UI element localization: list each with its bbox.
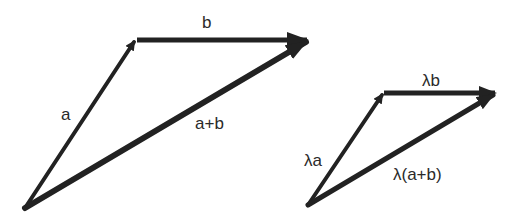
label-a-plus-b: a+b	[195, 115, 224, 132]
label-b: b	[202, 14, 211, 31]
vector-diagram-svg	[0, 0, 516, 222]
vector-lambda-a-arrow	[308, 95, 382, 205]
label-a: a	[61, 106, 70, 123]
vector-addition-diagram: b a a+b λb λa λ(a+b)	[0, 0, 516, 222]
vector-a-arrow	[25, 42, 134, 208]
label-lambda-a: λa	[304, 152, 322, 169]
vector-a-plus-b-arrow	[25, 42, 306, 208]
left-triangle	[25, 40, 307, 208]
label-lambda-a-plus-b: λ(a+b)	[393, 166, 442, 183]
right-triangle	[308, 93, 495, 205]
vector-lambda-a-plus-b-arrow	[308, 95, 493, 205]
label-lambda-b: λb	[422, 72, 440, 89]
